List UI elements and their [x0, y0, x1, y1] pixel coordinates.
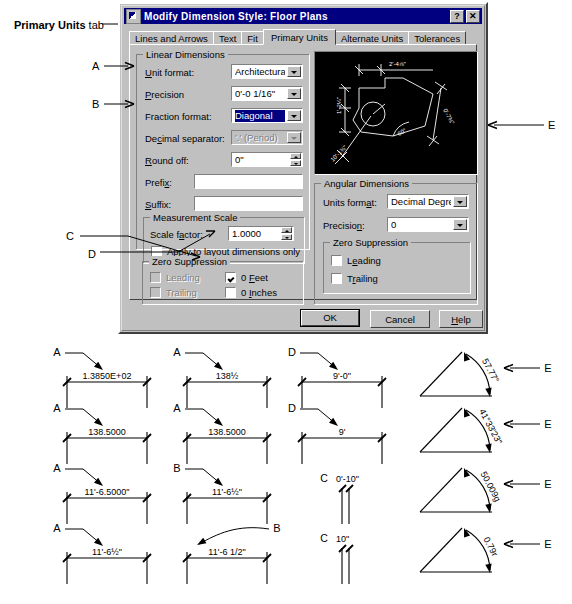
example-letter-a: A: [173, 402, 181, 414]
example-dim-text: 138.5000: [208, 427, 246, 437]
suffix-input[interactable]: [194, 196, 303, 211]
tab-text[interactable]: Text: [213, 31, 242, 45]
precision-combo[interactable]: 0'-0 1/16": [231, 86, 303, 101]
example-dim-text: 50.009g: [479, 470, 503, 503]
label-round-off: Round off:: [145, 155, 189, 166]
linear-trailing-checkbox: [150, 287, 161, 298]
example-letter-b: B: [173, 462, 180, 474]
ok-button[interactable]: OK: [300, 309, 360, 327]
group-angular-zero-suppression-title: Zero Suppression: [330, 237, 411, 248]
group-angular-zero-suppression: Zero Suppression Leading Trailing: [323, 242, 471, 294]
ok-button-label: OK: [301, 310, 359, 326]
annotation-letter-d-dialog: D: [88, 248, 96, 260]
example-dim-text: 138.5000: [88, 427, 126, 437]
angular-trailing-checkbox[interactable]: [331, 273, 342, 284]
label-suffix: Suffix:: [145, 199, 171, 210]
label-scale-factor: Scale factor:: [150, 229, 203, 240]
label-decimal-separator: Decimal separator:: [145, 133, 225, 144]
example-figures: A1.3850E+02A138½D9'-0"E57.77°A138.5000A1…: [0, 340, 572, 604]
label-angular-precision: Precision:: [323, 220, 365, 231]
chevron-down-icon[interactable]: [287, 88, 301, 99]
close-icon[interactable]: ✕: [466, 10, 480, 23]
label-unit-format: Unit format:: [145, 67, 194, 78]
scale-factor-value: 1.0000: [232, 228, 261, 240]
example-letter-a: A: [53, 522, 61, 534]
modify-dimension-style-dialog: Modify Dimension Style: Floor Plans ? ✕ …: [118, 2, 488, 334]
example-dim-text: 138½: [216, 371, 239, 381]
tab-fit[interactable]: Fit: [241, 31, 264, 45]
tab-alternate-units[interactable]: Alternate Units: [335, 31, 409, 45]
annotation-letter-c-dialog: C: [66, 230, 74, 242]
preview-dim-right: 0'-7¾": [442, 108, 455, 126]
precision-value: 0'-0 1/16": [235, 88, 285, 100]
help-button[interactable]: Help: [439, 310, 483, 328]
example-dim-text: 11'-6½": [212, 487, 242, 497]
example-dim-text: 10": [336, 534, 349, 544]
scale-factor-increment-button[interactable]: [281, 227, 292, 233]
example-dim-text: 41°33'23": [477, 407, 504, 446]
label-fraction-format: Fraction format:: [145, 111, 212, 122]
help-titlebar-button[interactable]: ?: [450, 10, 464, 23]
scale-factor-decrement-button[interactable]: [281, 234, 292, 240]
example-dim-text: 9': [339, 427, 346, 437]
chevron-down-icon[interactable]: [287, 66, 301, 77]
preview-drawing: 2'-4⅞" 1'-2¼" 0'-7¾" 60° 10'-1⅜": [315, 52, 477, 174]
tab-primary-units[interactable]: Primary Units: [263, 29, 336, 45]
example-dim-text: 0.79r: [481, 535, 499, 558]
decimal-separator-value: '.' (Period): [235, 132, 285, 144]
example-letter-a: A: [53, 462, 61, 474]
examples-area: A1.3850E+02A138½D9'-0"E57.77°A138.5000A1…: [0, 340, 572, 604]
tab-page-primary-units: Linear Dimensions Unit format: Architect…: [129, 44, 477, 300]
example-dim-text: 0'-10": [336, 474, 359, 484]
round-off-spinner[interactable]: 0": [231, 152, 303, 167]
round-off-value: 0": [235, 154, 244, 166]
group-linear-dimensions: Linear Dimensions Unit format: Architect…: [136, 54, 310, 250]
angular-units-format-combo[interactable]: Decimal Degrees: [387, 194, 469, 209]
chevron-down-icon[interactable]: [453, 196, 467, 207]
example-dim-text: 9'-0": [333, 371, 351, 381]
group-angular-dimensions: Angular Dimensions Units format: Decimal…: [314, 183, 478, 305]
label-linear-trailing: Trailing: [166, 287, 197, 298]
annotation-letter-e-dialog: E: [548, 119, 555, 131]
label-precision: Precision: [145, 89, 184, 100]
label-angular-leading: Leading: [347, 255, 381, 266]
example-letter-a: A: [53, 402, 61, 414]
group-linear-dimensions-title: Linear Dimensions: [143, 49, 228, 60]
group-linear-zero-suppression: Zero Suppression Leading Trailing 0 Feet…: [142, 261, 304, 305]
chevron-down-icon[interactable]: [453, 219, 467, 230]
tab-lines-and-arrows[interactable]: Lines and Arrows: [129, 31, 214, 45]
fraction-format-combo[interactable]: Diagonal: [231, 108, 303, 123]
label-zero-feet: 0 Feet: [241, 272, 268, 283]
scale-factor-spinner[interactable]: 1.0000: [228, 226, 294, 241]
example-letter-b: B: [273, 522, 280, 534]
example-dim-text: 11'-6½": [92, 547, 122, 557]
example-letter-a: A: [173, 346, 181, 358]
round-off-decrement-button[interactable]: [290, 160, 301, 166]
tab-strip: Lines and Arrows Text Fit Primary Units …: [129, 30, 477, 45]
chevron-down-icon[interactable]: [287, 110, 301, 121]
annotation-letter-a-dialog: A: [92, 60, 99, 72]
angular-precision-value: 0: [391, 219, 451, 231]
dialog-titlebar: Modify Dimension Style: Floor Plans ? ✕: [124, 8, 482, 24]
angular-precision-combo[interactable]: 0: [387, 217, 469, 232]
example-letter-c: C: [320, 472, 328, 484]
angular-leading-checkbox[interactable]: [331, 255, 342, 266]
zero-inches-checkbox[interactable]: [225, 287, 236, 298]
round-off-increment-button[interactable]: [290, 153, 301, 159]
dimension-style-preview: 2'-4⅞" 1'-2¼" 0'-7¾" 60° 10'-1⅜": [314, 51, 478, 175]
tab-tolerances[interactable]: Tolerances: [408, 31, 466, 45]
annotation-letter-b-dialog: B: [92, 98, 99, 110]
example-letter-c: C: [320, 532, 328, 544]
zero-feet-checkbox[interactable]: [225, 272, 236, 283]
label-prefix: Prefix:: [145, 177, 172, 188]
unit-format-combo[interactable]: Architectural: [231, 64, 303, 79]
prefix-input[interactable]: [194, 174, 303, 189]
example-dim-text: 11'-6.5000": [85, 487, 130, 497]
dimension-style-icon: [126, 9, 141, 24]
example-dim-text: 1.3850E+02: [83, 371, 132, 381]
preview-dim-top: 2'-4⅞": [389, 61, 406, 67]
cancel-button[interactable]: Cancel: [370, 310, 430, 328]
preview-dim-left: 1'-2¼": [336, 97, 342, 114]
angular-units-format-value: Decimal Degrees: [391, 196, 451, 208]
example-dim-text: 11'-6 1/2": [208, 547, 245, 557]
